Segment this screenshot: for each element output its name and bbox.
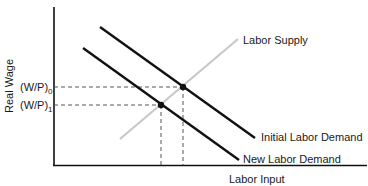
y-axis-label: Real Wage [3,59,15,113]
new-equilibrium-point [158,102,164,108]
wp1-label: (W/P)1 [20,99,53,114]
x-axis-label: Labor Input [229,173,285,185]
labor-market-chart: Real Wage (W/P)0 (W/P)1 Labor Supply Ini… [0,0,368,186]
labor-supply-label: Labor Supply [243,34,308,46]
new-labor-demand-label: New Labor Demand [243,153,341,165]
guide-lines [54,87,183,165]
initial-labor-demand-label: Initial Labor Demand [261,131,363,143]
wp0-label: (W/P)0 [20,81,53,96]
initial-equilibrium-point [180,84,186,90]
